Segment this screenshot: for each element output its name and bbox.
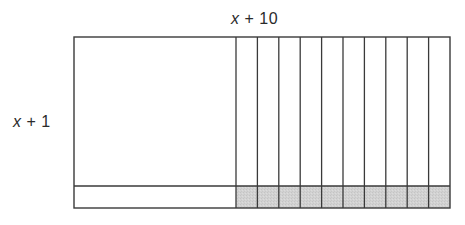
- unit-square: [386, 186, 407, 208]
- area-model-diagram: [0, 0, 465, 225]
- unit-square: [236, 186, 257, 208]
- unit-square: [429, 186, 450, 208]
- unit-square: [279, 186, 300, 208]
- strip-dividers: [257, 37, 428, 208]
- unit-square: [300, 186, 321, 208]
- unit-square: [364, 186, 385, 208]
- unit-square: [343, 186, 364, 208]
- outer-rectangle: [74, 37, 450, 208]
- unit-square: [407, 186, 428, 208]
- unit-square: [257, 186, 278, 208]
- unit-square: [322, 186, 343, 208]
